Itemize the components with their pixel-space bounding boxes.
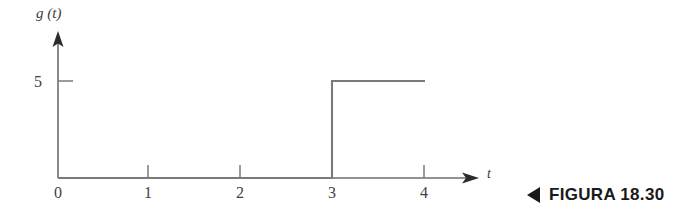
- x-axis-label: t: [487, 167, 491, 181]
- x-tick-label-3: 3: [320, 185, 344, 201]
- x-tick-label-4: 4: [412, 185, 436, 201]
- figure-caption: FIGURA 18.30: [527, 186, 664, 203]
- step-function-curve: [58, 81, 425, 178]
- y-axis-label: g (t): [36, 6, 61, 21]
- x-tick-label-0: 0: [46, 185, 70, 201]
- y-tick-label-5: 5: [20, 74, 42, 90]
- figure-container: g (t) t 5 0 1 2 3 4 FIGURA 18.30: [0, 0, 696, 221]
- x-tick-label-1: 1: [136, 185, 160, 201]
- left-triangle-icon: [527, 187, 540, 203]
- figure-caption-text: FIGURA 18.30: [549, 186, 664, 203]
- x-tick-label-2: 2: [228, 185, 252, 201]
